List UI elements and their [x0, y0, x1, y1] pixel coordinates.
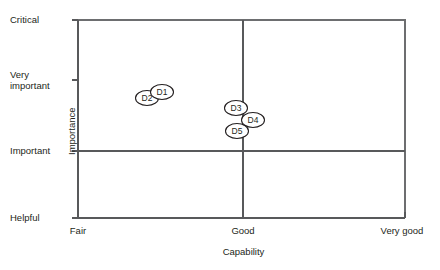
x-axis-tick-label-very-good: Very good	[370, 225, 434, 236]
y-axis-tick-label-critical: Critical	[10, 14, 39, 25]
data-point-d4: D4	[242, 113, 265, 128]
x-axis-tick-label-good: Good	[218, 225, 268, 236]
x-axis-tick-label-fair: Fair	[58, 225, 98, 236]
y-axis-tick-label-important: Important	[10, 145, 50, 156]
y-axis-title: Importance	[66, 107, 77, 155]
y-axis-tick-label-helpful: Helpful	[10, 212, 40, 223]
data-point-label: D3	[231, 103, 242, 113]
data-point-d1: D1	[151, 85, 174, 100]
data-point-label: D4	[248, 115, 259, 125]
data-point-label: D5	[232, 126, 243, 136]
x-axis-title: Capability	[186, 246, 301, 257]
y-axis-tick-label-very-important: Very important	[10, 69, 50, 91]
capability-importance-chart: D2 D1 D3 D5 D4 Critical Very important I…	[0, 0, 440, 270]
data-point-label: D1	[157, 87, 168, 97]
data-point-d3: D3	[225, 101, 248, 116]
